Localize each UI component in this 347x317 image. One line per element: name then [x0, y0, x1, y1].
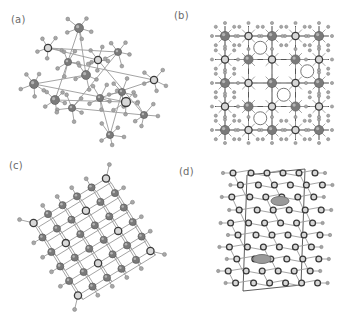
- crystal-structure-a: [0, 0, 175, 155]
- panel-c: (c): [0, 155, 175, 317]
- panel-d: (d): [175, 155, 347, 317]
- crystal-structure-b: [175, 0, 347, 155]
- panel-b: (b): [175, 0, 347, 155]
- crystal-structure-d: [175, 155, 347, 317]
- panel-a: (a): [0, 0, 175, 155]
- crystal-structure-c: [0, 155, 175, 317]
